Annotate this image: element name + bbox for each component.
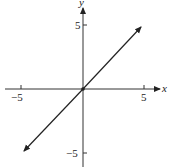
series-y-equals-x: [83, 27, 141, 89]
y-tick-label-5: 5: [75, 19, 81, 31]
origin-point: [81, 87, 85, 91]
x-tick-label-neg5: −5: [11, 91, 23, 103]
x-tick-label-5: 5: [141, 91, 147, 103]
y-tick-label-neg5: −5: [66, 147, 78, 159]
x-axis-label: x: [161, 82, 167, 94]
line-plot: x y −5 5 5 −5: [0, 0, 169, 167]
series-y-equals-x-neg: [24, 89, 83, 151]
y-axis-label: y: [78, 0, 84, 8]
